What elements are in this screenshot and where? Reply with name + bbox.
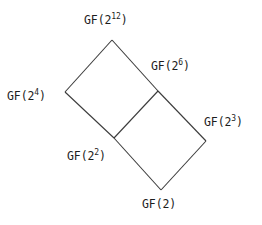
- node-label-gf2-6: GF(26): [151, 60, 190, 73]
- node-label-gf2-12-base: GF(2: [84, 13, 111, 27]
- node-label-gf2-base: GF(2: [142, 197, 169, 211]
- lattice-edges-svg: [0, 0, 262, 225]
- node-label-gf2-12-exponent: 12: [111, 12, 120, 21]
- node-label-gf2-12: GF(212): [84, 14, 128, 27]
- node-label-gf2-6-exponent: 6: [178, 58, 183, 67]
- node-label-gf2: GF(2): [142, 198, 176, 211]
- node-label-gf2-3-exponent: 3: [231, 114, 236, 123]
- node-label-gf2-12-close: ): [121, 13, 128, 27]
- edge-gf2-3-to-gf2: [161, 141, 206, 190]
- node-label-gf2-close: ): [169, 197, 176, 211]
- node-label-gf2-2: GF(22): [67, 150, 106, 163]
- subfield-lattice-diagram: GF(212) GF(26) GF(24) GF(23) GF(22) GF(2…: [0, 0, 262, 225]
- edge-gf2-6-to-gf2-3: [158, 91, 206, 141]
- edge-gf2-6-to-gf2-2: [114, 91, 158, 138]
- node-label-gf2-4-close: ): [39, 89, 46, 103]
- node-label-gf2-4-exponent: 4: [34, 88, 39, 97]
- node-label-gf2-4-base: GF(2: [7, 89, 34, 103]
- edge-gf2-2-to-gf2: [114, 138, 161, 190]
- node-label-gf2-2-exponent: 2: [94, 148, 99, 157]
- node-label-gf2-3: GF(23): [204, 116, 243, 129]
- node-label-gf2-3-close: ): [236, 115, 243, 129]
- node-label-gf2-6-base: GF(2: [151, 59, 178, 73]
- node-label-gf2-4: GF(24): [7, 90, 46, 103]
- edge-gf2-4-to-gf2-2: [65, 92, 114, 138]
- node-label-gf2-2-base: GF(2: [67, 149, 94, 163]
- edge-gf2-12-to-gf2-4: [65, 40, 112, 92]
- node-label-gf2-6-close: ): [183, 59, 190, 73]
- node-label-gf2-3-base: GF(2: [204, 115, 231, 129]
- node-label-gf2-2-close: ): [99, 149, 106, 163]
